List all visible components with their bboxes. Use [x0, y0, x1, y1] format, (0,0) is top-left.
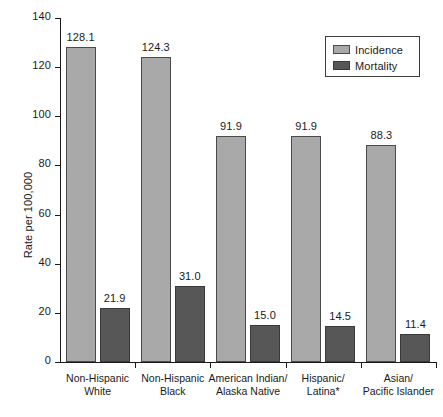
- y-tick-100: 100: [0, 116, 60, 117]
- y-tick-label: 80: [39, 157, 51, 169]
- chart-legend: Incidence Mortality: [325, 36, 420, 77]
- bar-incidence-2: [216, 136, 246, 362]
- x-axis-label-4: Asian/Pacific Islander: [353, 372, 443, 398]
- bar-value-incidence-0: 128.1: [60, 31, 102, 43]
- bar-value-mortality-2: 15.0: [244, 309, 286, 321]
- y-tick-label: 0: [45, 354, 51, 366]
- x-tick-4: [436, 362, 437, 368]
- x-axis-label-line: Pacific Islander: [353, 385, 443, 398]
- y-tick-140: 140: [0, 18, 60, 19]
- x-tick-2: [286, 362, 287, 368]
- bar-chart: Rate per 100,000 020406080100120140 128.…: [0, 0, 443, 417]
- y-tick-label: 100: [32, 108, 51, 120]
- y-tick-mark: [55, 362, 60, 363]
- legend-label-mortality: Mortality: [355, 60, 397, 72]
- bar-incidence-4: [366, 145, 396, 362]
- y-tick-40: 40: [0, 264, 60, 265]
- legend-entry-mortality: Mortality: [333, 58, 419, 73]
- y-tick-label: 20: [39, 305, 51, 317]
- bar-value-incidence-1: 124.3: [135, 41, 177, 53]
- y-tick-60: 60: [0, 215, 60, 216]
- bar-mortality-2: [250, 325, 280, 362]
- bar-incidence-3: [291, 136, 321, 362]
- bar-mortality-1: [175, 286, 205, 362]
- legend-swatch-mortality: [333, 61, 350, 70]
- x-tick-3: [361, 362, 362, 368]
- y-tick-label: 120: [32, 59, 51, 71]
- legend-swatch-incidence: [333, 45, 350, 54]
- bar-incidence-1: [141, 57, 171, 362]
- y-tick-0: 0: [0, 362, 60, 363]
- x-tick-1: [210, 362, 211, 368]
- bar-value-incidence-2: 91.9: [210, 120, 252, 132]
- bar-incidence-0: [66, 47, 96, 362]
- y-tick-label: 140: [32, 10, 51, 22]
- bar-value-mortality-0: 21.9: [94, 292, 136, 304]
- bar-mortality-0: [100, 308, 130, 362]
- legend-label-incidence: Incidence: [355, 44, 403, 56]
- bar-mortality-4: [400, 334, 430, 362]
- y-tick-20: 20: [0, 313, 60, 314]
- bar-value-mortality-3: 14.5: [319, 310, 361, 322]
- y-tick-label: 40: [39, 256, 51, 268]
- bar-value-incidence-4: 88.3: [360, 129, 402, 141]
- y-tick-120: 120: [0, 67, 60, 68]
- bar-mortality-3: [325, 326, 355, 362]
- legend-entry-incidence: Incidence: [333, 42, 419, 57]
- y-tick-80: 80: [0, 165, 60, 166]
- x-axis-label-line: Asian/: [353, 372, 443, 385]
- bar-value-incidence-3: 91.9: [285, 120, 327, 132]
- x-tick-0: [135, 362, 136, 368]
- bar-value-mortality-1: 31.0: [169, 270, 211, 282]
- y-tick-label: 60: [39, 207, 51, 219]
- bar-value-mortality-4: 11.4: [394, 318, 436, 330]
- x-axis-line: [60, 362, 436, 363]
